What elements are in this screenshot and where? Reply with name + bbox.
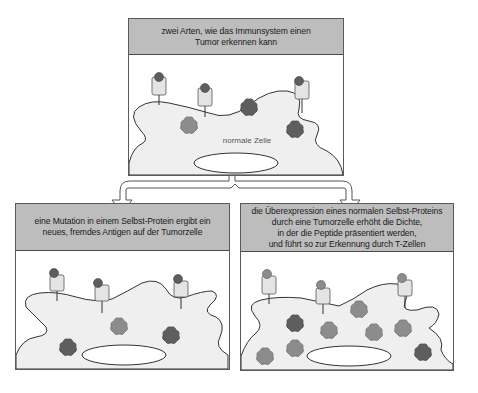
cell-illustration: normale Zelle bbox=[129, 55, 343, 175]
panel-title: eine Mutation in einem Selbst-Protein er… bbox=[16, 204, 229, 251]
cell-illustration bbox=[16, 251, 229, 369]
panel-normal-cell: zwei Arten, wie das Immunsystem einen Tu… bbox=[128, 18, 344, 176]
panel-mutation: eine Mutation in einem Selbst-Protein er… bbox=[15, 203, 230, 370]
cell-illustration bbox=[241, 252, 453, 370]
cell-label: normale Zelle bbox=[223, 136, 272, 145]
nucleus bbox=[82, 345, 166, 365]
nucleus bbox=[194, 153, 278, 173]
nucleus bbox=[307, 346, 391, 366]
mhc-receptor-icon bbox=[152, 73, 166, 106]
panel-title: die Überexpression eines normalen Selbst… bbox=[241, 204, 453, 252]
panel-title: zwei Arten, wie das Immunsystem einen Tu… bbox=[129, 19, 343, 55]
panel-overexpression: die Überexpression eines normalen Selbst… bbox=[240, 203, 454, 371]
